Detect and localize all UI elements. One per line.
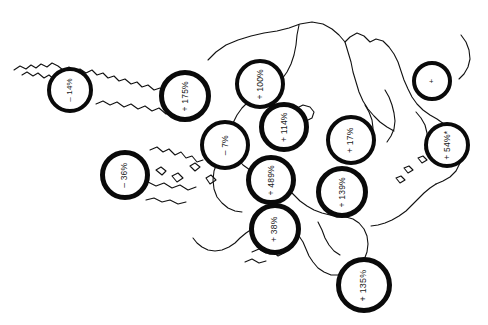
map-marker-label: + 175% (181, 81, 190, 111)
map-marker-negative[interactable]: – 7% (200, 120, 250, 170)
map-marker-positive[interactable]: + 139% (316, 166, 368, 218)
map-marker-positive[interactable]: + 100% (235, 59, 285, 109)
map-marker-label: + 139% (338, 177, 347, 207)
map-marker-label: + (428, 79, 436, 84)
map-marker-label: + 100% (256, 69, 265, 99)
map-marker-negative[interactable]: – 14% (47, 67, 93, 113)
map-marker-label: + 114% (280, 112, 289, 142)
map-marker-positive[interactable]: + 175% (159, 70, 211, 122)
map-marker-positive[interactable]: + 17% (326, 115, 376, 165)
map-marker-label: + 135% (359, 269, 368, 301)
map-marker-label: – 7% (221, 135, 230, 155)
map-marker-label: – 36% (121, 162, 130, 187)
map-marker-label: + 38% (271, 216, 280, 241)
marker-layer: – 14%+ 175%+ 100%++ 114%– 7%+ 17%+ 54%*–… (0, 0, 488, 325)
percentage-change-map: – 14%+ 175%+ 100%++ 114%– 7%+ 17%+ 54%*–… (0, 0, 488, 325)
map-marker-positive[interactable]: + (412, 61, 452, 101)
map-marker-label: + 17% (347, 127, 356, 152)
map-marker-positive[interactable]: + 135% (336, 257, 392, 313)
map-marker-positive[interactable]: + 489% (246, 155, 296, 205)
map-marker-positive[interactable]: + 114% (259, 102, 309, 152)
map-marker-positive[interactable]: + 38% (249, 203, 301, 255)
map-marker-negative[interactable]: – 36% (100, 150, 150, 200)
map-marker-positive[interactable]: + 54%* (424, 122, 470, 168)
map-marker-label: – 14% (66, 78, 74, 102)
map-marker-label: + 54%* (443, 131, 452, 160)
map-marker-label: + 489% (267, 165, 276, 195)
